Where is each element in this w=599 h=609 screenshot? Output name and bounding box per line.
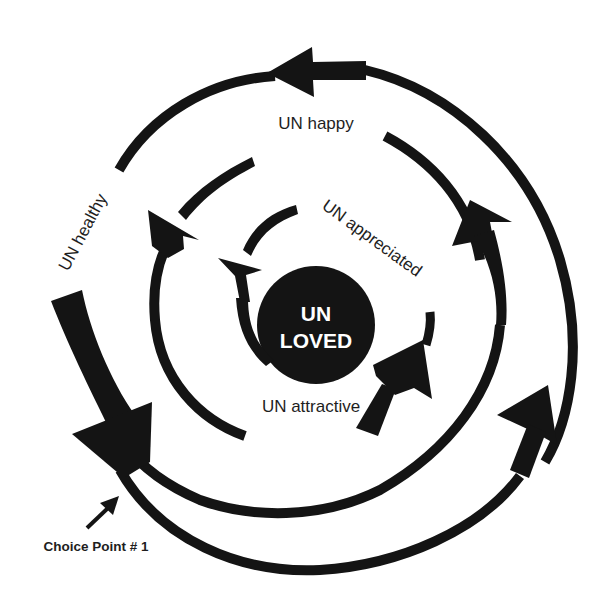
outer-ring-top-arrowhead-icon (267, 47, 366, 97)
center-circle (257, 266, 375, 384)
label-un-happy: UN happy (278, 114, 354, 133)
second-ring-bottom-arrow-shaft (356, 384, 396, 436)
second-ring-tail (178, 157, 255, 220)
inner-arrowhead-icon (218, 258, 262, 302)
label-un-attractive: UN attractive (262, 397, 360, 416)
label-un-healthy: UN healthy (55, 190, 111, 274)
center-label-line1: UN (301, 302, 331, 325)
second-ring-arrowhead-icon (148, 210, 199, 258)
second-ring-arc-right (426, 312, 430, 345)
downward-spiral-diagram: UN LOVED UN (0, 0, 599, 609)
label-un-appreciated: UN appreciated (319, 196, 426, 281)
third-ring-arrow-shaft (474, 230, 507, 325)
inner-spiral-tail (243, 205, 298, 256)
center-label-line2: LOVED (280, 329, 352, 352)
left-big-arrow (51, 290, 152, 478)
outer-ring-right-arrow-shaft (510, 424, 546, 478)
center-node: UN LOVED (257, 266, 375, 384)
label-choice-point: Choice Point # 1 (43, 539, 149, 554)
left-big-arrow-shaft (51, 290, 135, 430)
outer-ring-arc-top-left (119, 76, 275, 170)
choice-point-pointer (87, 496, 119, 528)
choice-pointer-line (87, 508, 108, 528)
